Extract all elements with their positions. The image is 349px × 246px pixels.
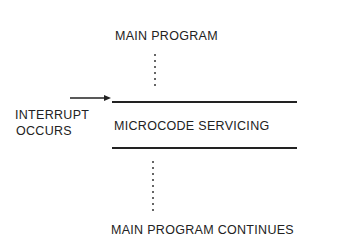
main-program-continues-label: MAIN PROGRAM CONTINUES <box>111 223 294 237</box>
interrupt-label-line2: OCCURS <box>16 124 72 138</box>
servicing-top-line <box>112 101 297 103</box>
microcode-servicing-label: MICROCODE SERVICING <box>114 119 270 133</box>
interrupt-label-line1: INTERRUPT <box>15 108 89 122</box>
servicing-bottom-line <box>112 147 297 149</box>
